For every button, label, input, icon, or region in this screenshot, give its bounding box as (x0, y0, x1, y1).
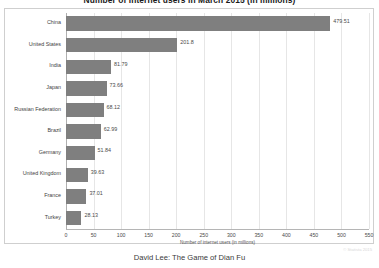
x-tick-label: 150 (144, 232, 153, 238)
bar[interactable] (66, 124, 101, 139)
bar-row: France37.01 (66, 186, 369, 208)
x-axis-line (66, 229, 369, 230)
x-tick-label: 550 (365, 232, 374, 238)
bar-value-label: 68.12 (107, 104, 121, 111)
bar-value-label: 51.84 (98, 147, 112, 154)
category-label: France (4, 192, 66, 199)
bar[interactable] (66, 189, 86, 204)
statista-watermark: © Statista 2015 (343, 247, 372, 252)
x-tick-label: 50 (91, 232, 97, 238)
bar-row: India81.79 (66, 56, 369, 78)
bar[interactable] (66, 168, 88, 183)
x-tick-label: 400 (282, 232, 291, 238)
chart-figure: Number of internet users in March 2015 (… (0, 0, 379, 268)
bar[interactable] (66, 60, 111, 75)
bar-value-label: 28.13 (84, 212, 98, 219)
x-tick-label: 100 (117, 232, 126, 238)
bar[interactable] (66, 211, 81, 226)
bar-row: United Kingdom39.63 (66, 164, 369, 186)
bar-row: United States201.8 (66, 35, 369, 57)
bar-row: Turkey28.13 (66, 207, 369, 229)
category-label: China (4, 19, 66, 26)
bar-row: Brazil62.99 (66, 121, 369, 143)
category-label: Japan (4, 84, 66, 91)
figure-caption: David Lee: The Game of Dian Fu (0, 253, 379, 262)
chart-title: Number of internet users in March 2015 (… (0, 0, 379, 6)
plot-area: China479.51United States201.8India81.79J… (66, 13, 369, 229)
x-tick-label: 250 (199, 232, 208, 238)
bar-value-label: 73.66 (110, 82, 124, 89)
bar-value-label: 37.01 (89, 190, 103, 197)
bar-value-label: 479.51 (333, 18, 350, 25)
gridline (369, 13, 370, 229)
category-label: Germany (4, 149, 66, 156)
category-label: India (4, 62, 66, 69)
x-tick-label: 200 (172, 232, 181, 238)
category-label: Russian Federation (4, 106, 66, 113)
category-label: Turkey (4, 214, 66, 221)
bar-row: China479.51 (66, 13, 369, 35)
x-tick-label: 350 (254, 232, 263, 238)
category-label: United Kingdom (4, 170, 66, 177)
bar-value-label: 81.79 (114, 61, 128, 68)
category-label: Brazil (4, 127, 66, 134)
bar-value-label: 39.63 (91, 169, 105, 176)
category-label: United States (4, 41, 66, 48)
bar[interactable] (66, 38, 177, 53)
bar[interactable] (66, 16, 330, 31)
x-tick-label: 500 (337, 232, 346, 238)
bar[interactable] (66, 81, 107, 96)
x-tick-label: 0 (65, 232, 68, 238)
x-tick-label: 300 (227, 232, 236, 238)
bar-value-label: 201.8 (180, 39, 194, 46)
bar-value-label: 62.99 (104, 126, 118, 133)
x-tick-label: 450 (310, 232, 319, 238)
bar-row: Japan73.66 (66, 78, 369, 100)
bar[interactable] (66, 103, 104, 118)
x-axis-title: Number of internet users (in millions) (66, 240, 369, 245)
bar[interactable] (66, 146, 95, 161)
bar-row: Russian Federation68.12 (66, 99, 369, 121)
bar-row: Germany51.84 (66, 143, 369, 165)
